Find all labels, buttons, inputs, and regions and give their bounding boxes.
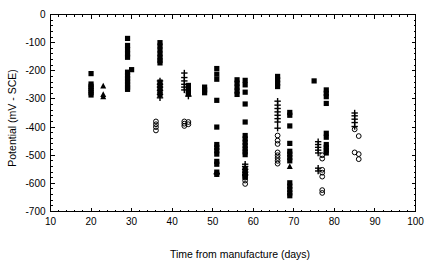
marker-square [125, 55, 130, 60]
marker-square [125, 87, 130, 92]
marker-circle [275, 142, 280, 147]
marker-square [243, 152, 248, 157]
marker-square [88, 71, 93, 76]
marker-square [287, 113, 292, 118]
x-tick-label: 50 [207, 216, 219, 227]
marker-square [214, 72, 219, 77]
y-tick-label: -200 [25, 65, 45, 76]
marker-square [214, 98, 219, 103]
x-tick-label: 20 [85, 216, 97, 227]
x-tick-label: 30 [126, 216, 138, 227]
y-tick-label: -500 [25, 150, 45, 161]
marker-square [202, 90, 207, 95]
y-tick-label: -400 [25, 122, 45, 133]
marker-square [287, 193, 292, 198]
marker-square [88, 92, 93, 97]
scatter-plot: 102030405060708090100 0-100-200-300-400-… [0, 0, 435, 265]
marker-square [214, 151, 219, 156]
chart-figure: 102030405060708090100 0-100-200-300-400-… [0, 0, 435, 265]
marker-square [214, 77, 219, 82]
marker-circle [356, 134, 361, 139]
marker-square [287, 141, 292, 146]
marker-square [214, 162, 219, 167]
marker-circle [320, 156, 325, 161]
plot-frame [51, 15, 416, 212]
x-tick-label: 100 [407, 216, 424, 227]
marker-square [275, 84, 280, 89]
marker-square [129, 67, 134, 72]
marker-square [243, 82, 248, 87]
marker-circle [154, 128, 159, 133]
series-filled-triangle [100, 83, 293, 176]
marker-square [157, 60, 162, 65]
marker-square [243, 90, 248, 95]
marker-square [312, 78, 317, 83]
marker-square [324, 101, 329, 106]
y-tick-label: 0 [40, 9, 46, 20]
marker-square [324, 135, 329, 140]
x-axis-label: Time from manufacture (days) [170, 248, 310, 260]
marker-triangle [100, 83, 106, 89]
y-tick-label: -100 [25, 37, 45, 48]
marker-square [243, 119, 248, 124]
x-tick-label: 60 [248, 216, 260, 227]
data-points [88, 36, 361, 199]
marker-circle [356, 152, 361, 157]
marker-square [125, 36, 130, 41]
series-filled-square [88, 36, 328, 199]
marker-circle [356, 157, 361, 162]
y-tick-label: -600 [25, 178, 45, 189]
marker-square [214, 66, 219, 71]
y-tick-label: -300 [25, 93, 45, 104]
marker-square [287, 158, 292, 163]
y-axis-label: Potential (mV - SCE) [6, 69, 18, 166]
marker-circle [275, 133, 280, 138]
marker-square [324, 94, 329, 99]
marker-square [287, 123, 292, 128]
plot-border [51, 15, 416, 212]
x-tick-label: 10 [45, 216, 57, 227]
x-axis-ticks: 102030405060708090100 [45, 15, 424, 227]
series-open-circle [154, 119, 362, 195]
x-tick-label: 40 [167, 216, 179, 227]
marker-square [243, 78, 248, 83]
marker-square [234, 92, 239, 97]
marker-circle [243, 182, 248, 187]
marker-square [243, 101, 248, 106]
x-tick-label: 70 [288, 216, 300, 227]
y-tick-label: -700 [25, 206, 45, 217]
x-tick-label: 90 [369, 216, 381, 227]
marker-triangle [287, 163, 293, 169]
marker-square [214, 124, 219, 129]
x-tick-label: 80 [329, 216, 341, 227]
